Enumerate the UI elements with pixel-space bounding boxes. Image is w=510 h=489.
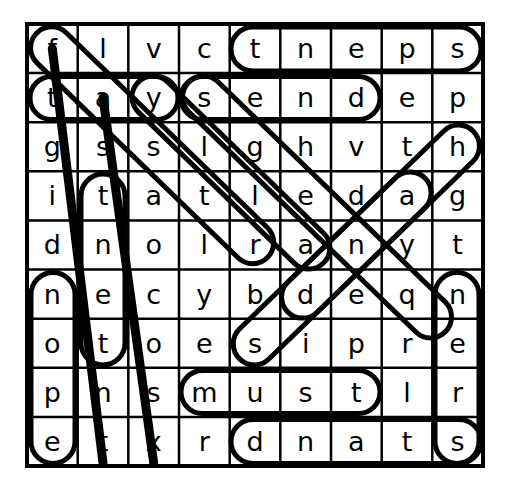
word-search-page: flvctnepstaysendepgsslghvthitatledagdnol… (0, 0, 510, 489)
grid-and-markers-layer (25, 22, 485, 468)
word-search-grid[interactable]: flvctnepstaysendepgsslghvthitatledagdnol… (25, 22, 485, 468)
